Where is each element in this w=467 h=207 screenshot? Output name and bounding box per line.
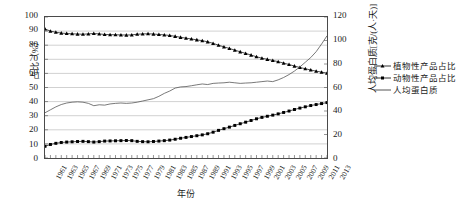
left-tick-label: 70	[12, 54, 38, 63]
plot-area	[44, 16, 328, 159]
legend-marker-icon	[374, 73, 391, 83]
left-tick-label: 0	[12, 154, 38, 163]
left-tick-label: 50	[12, 83, 38, 92]
right-tick-label: 0	[333, 154, 359, 163]
legend-label: 动物性产品占比	[393, 72, 456, 84]
data-series-layer	[45, 17, 327, 158]
legend-marker-icon	[374, 85, 391, 95]
legend-item: 动物性产品占比	[374, 72, 456, 84]
left-tick-label: 60	[12, 68, 38, 77]
legend-item: 人均蛋白质	[374, 84, 456, 96]
right-tick-label: 20	[333, 130, 359, 139]
left-tick-label: 10	[12, 140, 38, 149]
legend-marker-icon	[374, 61, 391, 71]
legend-item: 植物性产品占比	[374, 60, 456, 72]
chart-legend: 植物性产品占比动物性产品占比人均蛋白质	[374, 60, 456, 96]
series-2	[45, 36, 327, 113]
right-tick-label: 40	[333, 106, 359, 115]
right-tick-label: 120	[333, 11, 359, 20]
x-axis-title: 年份	[44, 187, 328, 200]
left-tick-label: 80	[12, 40, 38, 49]
left-tick-label: 40	[12, 97, 38, 106]
right-tick-label: 100	[333, 35, 359, 44]
left-tick-label: 20	[12, 125, 38, 134]
chart-container: 占比（%） 人均蛋白质[克/(人·天)] 年份 0102030405060708…	[0, 0, 467, 207]
series-1	[45, 101, 327, 148]
series-0	[45, 27, 327, 75]
right-tick-label: 60	[333, 83, 359, 92]
right-tick-label: 80	[333, 59, 359, 68]
left-tick-label: 100	[12, 11, 38, 20]
legend-label: 植物性产品占比	[393, 60, 456, 72]
legend-label: 人均蛋白质	[393, 84, 438, 96]
left-tick-label: 90	[12, 25, 38, 34]
x-axis-tick-labels: 1961196319651967196919711973197519771979…	[44, 160, 328, 186]
left-tick-label: 30	[12, 111, 38, 120]
